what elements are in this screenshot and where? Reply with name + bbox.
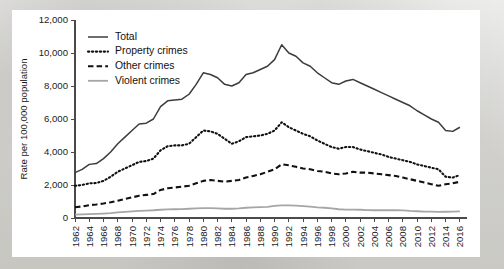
x-axis-tick-label: 1986 [241, 226, 252, 247]
x-axis-tick-label: 1980 [198, 226, 209, 247]
y-axis-tick-label: 12,000 [39, 14, 68, 25]
x-axis-tick-label: 1978 [184, 226, 195, 247]
y-axis-tick-label: 10,000 [39, 47, 68, 58]
x-axis-tick-label: 1988 [255, 226, 266, 247]
series-line-other-crimes [75, 164, 460, 207]
y-axis-tick-label: 8,000 [44, 80, 68, 91]
y-axis-tick-label: 6,000 [44, 113, 68, 124]
y-axis-tick-group: 02,0004,0006,0008,00010,00012,000 [39, 14, 75, 223]
series-line-violent-crimes [75, 205, 460, 214]
x-axis-tick-label: 2008 [397, 226, 408, 247]
legend-label-total: Total [115, 31, 137, 42]
x-axis-tick-label: 2014 [440, 225, 451, 247]
series-line-property-crimes [75, 122, 460, 186]
x-axis-tick-label: 1996 [312, 226, 323, 247]
legend-label-property-crimes: Property crimes [115, 45, 188, 56]
x-axis-tick-label: 1974 [155, 225, 166, 247]
y-axis-tick-label: 0 [63, 212, 68, 223]
x-axis-tick-label: 1976 [169, 226, 180, 247]
x-axis-tick-group: 1962196419661968197019721974197619781980… [70, 218, 466, 247]
chart-legend: TotalProperty crimesOther crimesViolent … [88, 31, 188, 86]
x-axis-tick-label: 2006 [383, 226, 394, 247]
x-axis-tick-label: 1998 [326, 226, 337, 247]
line-chart: 02,0004,0006,0008,00010,00012,000 196219… [12, 10, 480, 257]
x-axis-tick-label: 1962 [70, 226, 81, 247]
x-axis-tick-label: 2010 [412, 226, 423, 247]
x-axis-tick-label: 1970 [127, 226, 138, 247]
x-axis-tick-label: 1990 [269, 226, 280, 247]
x-axis-tick-label: 2012 [426, 226, 437, 247]
y-axis-tick-label: 2,000 [44, 179, 68, 190]
x-axis-tick-label: 1994 [298, 225, 309, 247]
x-axis-tick-label: 1964 [84, 225, 95, 247]
x-axis-tick-label: 2000 [340, 226, 351, 247]
x-axis-tick-label: 2016 [454, 226, 465, 247]
legend-label-violent-crimes: Violent crimes [115, 75, 180, 86]
figure-card: 02,0004,0006,0008,00010,00012,000 196219… [12, 10, 480, 257]
x-axis-tick-label: 2002 [355, 226, 366, 247]
x-axis-tick-label: 2004 [369, 225, 380, 247]
legend-label-other-crimes: Other crimes [115, 60, 174, 71]
x-axis-tick-label: 1968 [112, 226, 123, 247]
x-axis-tick-label: 1982 [212, 226, 223, 247]
y-axis-tick-label: 4,000 [44, 146, 68, 157]
x-axis-tick-label: 1966 [98, 226, 109, 247]
x-axis-tick-label: 1992 [283, 226, 294, 247]
x-axis-tick-label: 1972 [141, 226, 152, 247]
y-axis-title: Rate per 100,000 population [18, 58, 29, 179]
x-axis-tick-label: 1984 [226, 225, 237, 247]
